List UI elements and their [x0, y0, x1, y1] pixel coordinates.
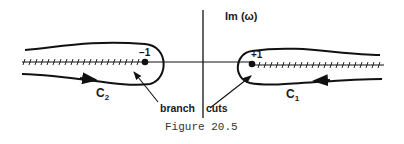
- branch-point-minus-one: [142, 59, 149, 66]
- contour-diagram: Im (ω) −1 +1 C2 C1 branch cuts Figure 20…: [0, 0, 404, 144]
- branch-point-plus-one: [249, 61, 256, 68]
- right-branch-cut: [252, 62, 384, 68]
- figure-20-5: Im (ω) −1 +1 C2 C1 branch cuts Figure 20…: [0, 0, 404, 144]
- annotation-branch: branch: [160, 102, 195, 114]
- point-label-minus-one: −1: [139, 47, 151, 58]
- contour-label-c2: C2: [96, 86, 110, 102]
- figure-caption: Figure 20.5: [165, 121, 238, 133]
- c1-direction-arrow: [314, 80, 330, 81]
- annotation-cuts: cuts: [206, 102, 228, 114]
- point-label-plus-one: +1: [251, 49, 263, 60]
- branch-pointer-left: [134, 72, 158, 102]
- left-branch-cut: [22, 59, 145, 65]
- axis-label: Im (ω): [225, 10, 258, 22]
- contour-label-c1: C1: [286, 87, 300, 103]
